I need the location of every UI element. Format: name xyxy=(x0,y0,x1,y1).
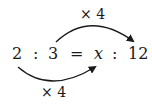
bottom-arrow xyxy=(18,67,95,81)
left-consequent: 3 xyxy=(48,46,58,62)
bottom-arrow-label: × 4 xyxy=(41,85,66,99)
right-ratio-colon: : xyxy=(112,46,117,62)
equals-sign: = xyxy=(70,46,83,62)
left-antecedent: 2 xyxy=(12,46,22,62)
right-consequent: 12 xyxy=(128,46,148,62)
top-arrow xyxy=(56,26,133,42)
left-ratio-colon: : xyxy=(33,46,38,62)
top-arrow-label: × 4 xyxy=(80,7,105,21)
unknown-variable: x xyxy=(94,46,103,62)
ratio-diagram: × 4 2 : 3 = x : 12 × 4 xyxy=(0,0,152,104)
